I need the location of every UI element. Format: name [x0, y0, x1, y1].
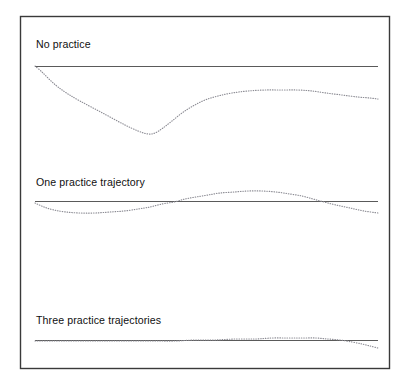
- figure-container: No practice One practice trajectory Thre…: [0, 0, 411, 387]
- panel-three-practice-trajectories: Three practice trajectories: [35, 314, 378, 348]
- trajectory-curve-three-practice-trajectories: [35, 338, 378, 348]
- panel-one-practice-trajectory: One practice trajectory: [35, 176, 378, 213]
- panel-label-no-practice: No practice: [36, 38, 91, 50]
- trajectory-curve-no-practice: [35, 66, 378, 134]
- panel-label-one-practice-trajectory: One practice trajectory: [36, 176, 145, 188]
- trajectory-figure: No practice One practice trajectory Thre…: [0, 0, 411, 387]
- panel-no-practice: No practice: [35, 38, 378, 134]
- panel-label-three-practice-trajectories: Three practice trajectories: [36, 314, 161, 326]
